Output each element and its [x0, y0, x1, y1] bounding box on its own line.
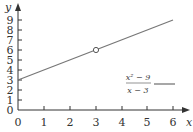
svg-text:9: 9: [7, 14, 14, 27]
legend: x² − 9 x − 3: [126, 73, 175, 95]
y-tick-labels: 0 1 2 3 4 5 6 7 8 9: [7, 14, 14, 117]
x-axis-arrow-icon: [182, 107, 190, 113]
y-axis-label: y: [4, 1, 12, 14]
x-tick-labels: 0 1 2 3 4 5 6: [15, 116, 177, 129]
svg-text:1: 1: [41, 116, 48, 129]
svg-text:0: 0: [15, 116, 22, 129]
x-ticks: [44, 106, 173, 110]
svg-text:6: 6: [170, 116, 177, 129]
svg-text:5: 5: [144, 116, 151, 129]
open-circle-hole: [93, 47, 98, 52]
chart: 0 1 2 3 4 5 6 x 0 1 2 3 4 5 6 7 8 9 y x²…: [0, 0, 193, 132]
legend-denominator: x − 3: [127, 86, 148, 95]
legend-numerator: x² − 9: [126, 73, 151, 82]
y-axis-arrow-icon: [15, 3, 21, 11]
svg-text:3: 3: [93, 116, 100, 129]
y-ticks: [18, 20, 22, 100]
x-axis-label: x: [186, 116, 193, 129]
svg-text:2: 2: [67, 116, 74, 129]
svg-text:4: 4: [119, 116, 126, 129]
